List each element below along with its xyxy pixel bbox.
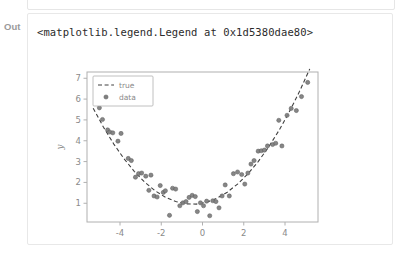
data-point [116, 139, 120, 143]
y-tick-label: 6 [76, 94, 81, 104]
data-point [119, 131, 123, 135]
data-point [220, 194, 224, 198]
data-point [100, 117, 104, 121]
data-point [201, 204, 205, 208]
data-point [235, 170, 239, 174]
x-tick-label: -2 [157, 228, 165, 237]
data-point [184, 199, 188, 203]
y-tick-label: 5 [76, 115, 81, 125]
legend-label-true: true [119, 81, 135, 90]
matplotlib-figure[interactable]: -4-20241234567xytruedata [33, 52, 385, 237]
data-point [246, 171, 250, 175]
data-point [262, 148, 266, 152]
data-point [249, 162, 253, 166]
data-point [163, 189, 167, 193]
y-tick-label: 2 [76, 177, 81, 187]
data-point [240, 172, 244, 176]
data-point [111, 131, 115, 135]
x-tick-label: 0 [200, 228, 205, 237]
data-point [306, 80, 310, 84]
previous-cell-edge [27, 0, 395, 10]
legend-label-data: data [119, 93, 136, 102]
data-point [223, 183, 227, 187]
data-point [289, 106, 293, 110]
data-point [205, 199, 209, 203]
data-point [167, 213, 171, 217]
data-point [133, 175, 137, 179]
data-point [265, 144, 269, 148]
legend-data-sample [104, 95, 108, 99]
output-repr-text: <matplotlib.legend.Legend at 0x1d5380dae… [37, 26, 313, 38]
data-point [208, 214, 212, 218]
data-point [252, 158, 256, 162]
data-point [149, 173, 153, 177]
y-tick-label: 7 [76, 73, 81, 83]
data-point [294, 108, 298, 112]
data-point [285, 113, 289, 117]
data-point [147, 188, 151, 192]
screenshot-root: Out <matplotlib.legend.Legend at 0x1d538… [0, 0, 405, 265]
data-point [195, 209, 199, 213]
data-point [174, 187, 178, 191]
y-tick-label: 4 [76, 136, 81, 146]
data-point [193, 194, 197, 198]
x-tick-label: -4 [116, 228, 124, 237]
output-prompt-label: Out [4, 21, 26, 32]
data-point [231, 172, 235, 176]
data-point [299, 94, 303, 98]
y-axis-label: y [55, 144, 65, 150]
data-point [277, 118, 281, 122]
data-point [280, 144, 284, 148]
plot-canvas: -4-20241234567xytruedata [33, 52, 385, 237]
data-point [217, 206, 221, 210]
data-point [214, 199, 218, 203]
data-point [274, 141, 278, 145]
data-point [155, 195, 159, 199]
x-tick-label: 4 [282, 228, 287, 237]
data-point [144, 174, 148, 178]
y-tick-label: 3 [76, 157, 81, 167]
data-point [129, 158, 133, 162]
data-point [140, 171, 144, 175]
data-point [158, 183, 162, 187]
y-tick-label: 1 [76, 198, 81, 208]
x-tick-label: 2 [241, 228, 246, 237]
data-point [243, 182, 247, 186]
output-cell[interactable]: <matplotlib.legend.Legend at 0x1d5380dae… [27, 13, 393, 245]
data-point [227, 194, 231, 198]
